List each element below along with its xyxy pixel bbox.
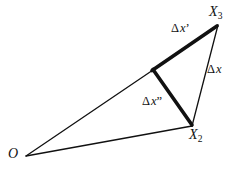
- delta-glyph: Δ: [142, 94, 151, 108]
- delta-glyph: Δ: [207, 62, 216, 76]
- segment-o-to-junction: [26, 70, 153, 156]
- vertex-label-x3-subscript: 3: [218, 11, 223, 21]
- segment-label-delta-x-base: x: [216, 62, 222, 76]
- vertex-label-x2: X2: [189, 128, 203, 144]
- vertex-label-x2-base: X: [189, 127, 198, 142]
- segment-o-to-x2: [26, 126, 192, 156]
- vertex-label-x3: X3: [209, 5, 223, 21]
- double-prime-glyph: ”: [157, 94, 162, 108]
- geometry-figure: X3 X2 O Δx’ Δx Δx”: [0, 0, 239, 172]
- segment-label-delta-x-prime: Δx’: [171, 22, 190, 35]
- segment-label-delta-x: Δx: [207, 63, 222, 76]
- prime-glyph: ’: [186, 21, 190, 35]
- vertex-label-origin: O: [8, 147, 18, 161]
- delta-glyph: Δ: [171, 21, 180, 35]
- figure-canvas: [0, 0, 239, 172]
- segment-label-delta-x-double-prime: Δx”: [142, 95, 162, 108]
- vertex-label-x2-subscript: 2: [198, 134, 203, 144]
- vertex-label-x3-base: X: [209, 4, 218, 19]
